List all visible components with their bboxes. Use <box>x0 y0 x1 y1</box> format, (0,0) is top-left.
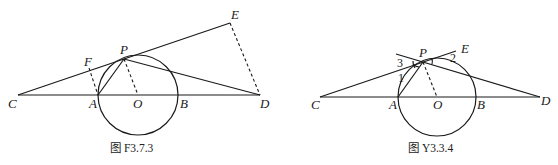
line-pd <box>124 59 260 95</box>
line-ce <box>320 51 456 97</box>
label-d: D <box>259 96 270 111</box>
label-b: B <box>180 96 188 111</box>
geometry-figures: C A O B D P F E 图 F3.7.3 C A O B D P E 1… <box>0 0 558 165</box>
label-a: A <box>388 97 397 112</box>
label-c: C <box>8 96 17 111</box>
figure-right: C A O B D P E 1 2 3 图 Y3.3.4 <box>311 41 551 154</box>
figure-left: C A O B D P F E 图 F3.7.3 <box>8 7 270 154</box>
caption-right: 图 Y3.3.4 <box>408 142 453 154</box>
angle-1-label: 1 <box>398 71 404 85</box>
dashed-po <box>423 62 437 97</box>
label-b: B <box>477 97 485 112</box>
dashed-ed <box>230 23 260 95</box>
label-c: C <box>311 97 320 112</box>
angle-3-label: 3 <box>397 56 403 70</box>
label-o: O <box>433 97 443 112</box>
dashed-fa <box>89 68 98 95</box>
label-o: O <box>133 96 143 111</box>
dashed-po <box>124 59 138 95</box>
line-pd <box>396 54 540 97</box>
label-p: P <box>119 42 128 57</box>
label-d: D <box>540 93 551 108</box>
label-e: E <box>460 41 469 56</box>
caption-left: 图 F3.7.3 <box>110 142 154 154</box>
label-a: A <box>88 96 97 111</box>
label-e: E <box>230 7 239 22</box>
label-f: F <box>83 54 93 69</box>
label-p: P <box>418 45 427 60</box>
angle-2-label: 2 <box>450 51 456 65</box>
